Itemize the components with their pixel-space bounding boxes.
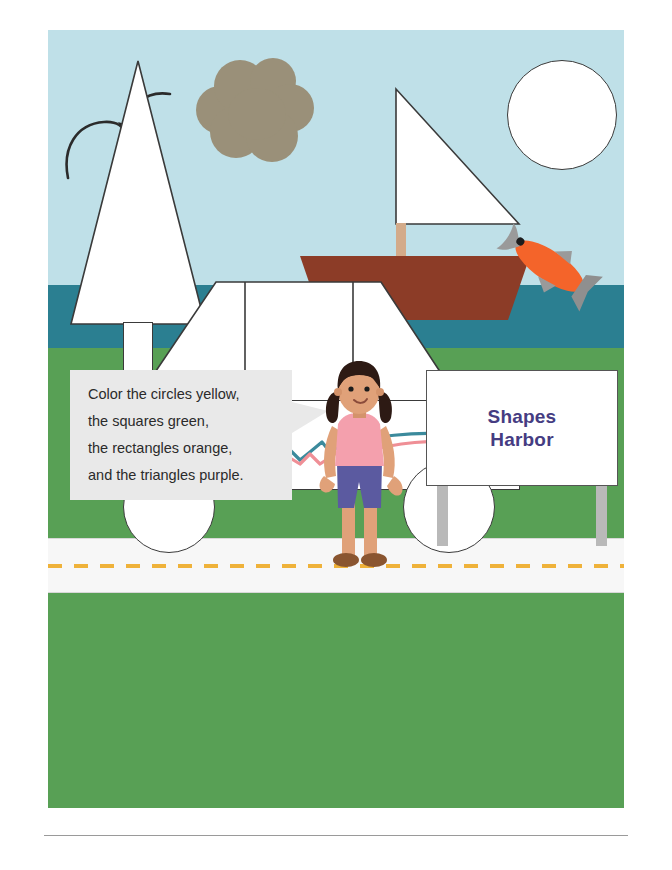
sign-post-left	[437, 486, 448, 546]
sign-post-right	[596, 486, 607, 546]
girl-character	[304, 358, 414, 573]
cloud-blob	[228, 88, 286, 140]
footer-divider	[44, 835, 628, 836]
instruction-line-2: the squares green,	[88, 411, 278, 432]
sign-text: Shapes Harbor	[488, 405, 557, 451]
instruction-line-3: the rectangles orange,	[88, 438, 278, 459]
sign-text-line-2: Harbor	[488, 428, 557, 451]
sign-text-line-1: Shapes	[488, 405, 557, 428]
sun-circle	[507, 60, 617, 170]
instruction-line-1: Color the circles yellow,	[88, 384, 278, 405]
shapes-harbor-sign: Shapes Harbor	[426, 370, 618, 545]
instruction-line-4: and the triangles purple.	[88, 465, 278, 486]
cloud	[196, 58, 316, 168]
worksheet-page: Color the circles yellow, the squares gr…	[0, 0, 672, 870]
illustration-scene: Color the circles yellow, the squares gr…	[48, 30, 624, 808]
instruction-speech-bubble: Color the circles yellow, the squares gr…	[70, 370, 292, 500]
sign-board: Shapes Harbor	[426, 370, 618, 486]
